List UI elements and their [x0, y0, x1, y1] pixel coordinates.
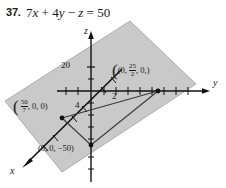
problem-number: 37. — [6, 7, 21, 18]
var-z: z — [78, 5, 83, 20]
y-intercept-prefix: (0, — [118, 65, 127, 75]
var-x: x — [33, 5, 39, 20]
x-tick-label-4: 4 — [75, 101, 80, 110]
intercept-dot-z — [89, 143, 94, 148]
var-y: y — [59, 5, 65, 20]
z-tick-label-20: 20 — [61, 61, 70, 70]
intercept-dot-y — [156, 89, 161, 94]
constant-50: 50 — [97, 5, 110, 20]
equals-sign: = — [87, 5, 94, 20]
x-intercept-fraction: 50 7 — [21, 99, 28, 115]
x-axis-label: x — [10, 166, 14, 176]
fraction-denominator: 2 — [129, 70, 136, 78]
fraction-denominator: 7 — [21, 106, 28, 114]
y-axis-label: y — [213, 78, 217, 88]
plane-graph-figure: 37. 7x + 4y − z = 50 z y x 20 2 4 ((0, 2… — [0, 0, 226, 188]
y-intercept-fraction: 25 2 — [129, 63, 136, 79]
intercept-dot-x — [60, 116, 65, 121]
plane-region — [5, 21, 196, 172]
operator-minus: − — [68, 5, 75, 20]
x-intercept-suffix: , 0, 0) — [28, 101, 48, 111]
operator-plus: + — [42, 5, 49, 20]
open-paren: ( — [13, 97, 19, 116]
y-tick-label-2: 2 — [112, 92, 117, 101]
fraction-numerator: 50 — [21, 99, 28, 106]
z-intercept-label: (0, 0, −50) — [38, 144, 74, 153]
y-intercept-suffix: , 0,) — [136, 65, 149, 75]
y-intercept-label: ((0, 25 2 , 0,) — [112, 63, 149, 79]
x-intercept-label: ( 50 7 , 0, 0) — [13, 99, 48, 115]
z-axis-label: z — [84, 26, 88, 36]
fraction-numerator: 25 — [129, 63, 136, 70]
equation-text: 7x + 4y − z = 50 — [26, 6, 110, 19]
